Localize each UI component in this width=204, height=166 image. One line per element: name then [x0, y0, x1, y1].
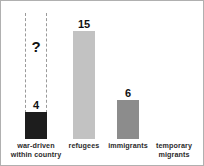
bar-value-refugees: 15 [73, 18, 95, 30]
bar-chart: ? 4 war-driven within country 15 refugee… [0, 0, 204, 166]
category-label-war-driven-line2: within country [7, 150, 65, 159]
bar-war-driven [25, 112, 47, 139]
unknown-value-question-mark: ? [25, 39, 47, 54]
bar-value-war-driven: 4 [25, 99, 47, 111]
category-label-temporary-migrants-line2: migrants [147, 150, 201, 159]
bar-immigrants [117, 100, 139, 139]
bar-refugees [73, 31, 95, 139]
category-label-temporary-migrants-line1: temporary [147, 141, 201, 150]
uncertainty-dashed-line-right [46, 13, 47, 113]
uncertainty-dashed-line-left [25, 13, 26, 113]
plot-area: ? 4 war-driven within country 15 refugee… [1, 1, 203, 165]
category-label-temporary-migrants: temporary migrants [147, 141, 201, 159]
bar-value-immigrants: 6 [117, 87, 139, 99]
